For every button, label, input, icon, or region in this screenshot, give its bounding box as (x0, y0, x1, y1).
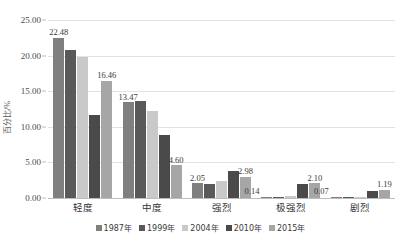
bar[interactable] (331, 197, 342, 198)
bar-group: 0.071.19 (326, 20, 395, 198)
bar-value-label: 2.98 (238, 167, 253, 176)
bar[interactable] (65, 50, 76, 198)
bar-chart: 百分比/% 0.005.0010.0015.0020.0025.00 22.48… (0, 0, 401, 243)
bar-value-label: 0.07 (314, 187, 329, 196)
legend-swatch-icon (226, 225, 232, 231)
bar-column[interactable] (159, 20, 170, 198)
bar[interactable] (171, 165, 182, 198)
x-axis-labels: 轻度中度强烈极强烈剧烈 (48, 200, 395, 214)
bar-column[interactable]: 0.14 (261, 20, 272, 198)
y-axis-tick-mark (42, 198, 46, 199)
chart-legend: 1987年1999年2004年2010年2015年 (0, 222, 401, 233)
bar-column[interactable] (285, 20, 296, 198)
y-axis-ticks: 0.005.0010.0015.0020.0025.00 (0, 20, 46, 198)
bar[interactable] (355, 197, 366, 198)
bar-column[interactable]: 2.98 (240, 20, 251, 198)
y-axis-tick-label: 0.00 (25, 193, 41, 203)
legend-label: 1987年 (104, 222, 132, 233)
legend-swatch-icon (182, 225, 188, 231)
bar[interactable] (343, 197, 354, 198)
y-axis-tick-label: 5.00 (25, 157, 41, 167)
bar-group: 13.474.60 (117, 20, 186, 198)
bar-value-label: 0.14 (245, 187, 260, 196)
bar-column[interactable] (297, 20, 308, 198)
bar-group: 2.052.98 (187, 20, 256, 198)
bar-value-label: 2.05 (190, 174, 205, 183)
x-axis-category-label: 极强烈 (256, 200, 325, 214)
legend-item[interactable]: 2004年 (182, 222, 218, 233)
bar-column[interactable]: 22.48 (53, 20, 64, 198)
x-axis-category-label: 轻度 (48, 200, 117, 214)
bar[interactable] (285, 196, 296, 198)
y-axis-tick-mark (42, 91, 46, 92)
legend-item[interactable]: 1999年 (139, 222, 175, 233)
bar-column[interactable]: 1.19 (379, 20, 390, 198)
bar-column[interactable] (204, 20, 215, 198)
bar[interactable] (123, 102, 134, 198)
x-axis-category-label: 中度 (117, 200, 186, 214)
bar[interactable] (77, 57, 88, 198)
y-axis-tick-mark (42, 162, 46, 163)
plot-area: 22.4816.4613.474.602.052.980.142.100.071… (48, 20, 395, 198)
bar[interactable] (147, 111, 158, 198)
bar-column[interactable] (343, 20, 354, 198)
bar[interactable] (135, 101, 146, 198)
bar-groups: 22.4816.4613.474.602.052.980.142.100.071… (48, 20, 395, 198)
y-axis-tick-label: 10.00 (21, 122, 41, 132)
y-axis-tick-label: 20.00 (21, 51, 41, 61)
bar[interactable] (297, 184, 308, 198)
x-axis-category-label: 强烈 (187, 200, 256, 214)
bar-value-label: 2.10 (307, 174, 322, 183)
bar-column[interactable]: 0.07 (331, 20, 342, 198)
legend-label: 2015年 (277, 222, 305, 233)
bar[interactable] (101, 81, 112, 198)
bar-value-label: 4.60 (169, 156, 184, 165)
legend-item[interactable]: 2015年 (269, 222, 305, 233)
bar-column[interactable] (355, 20, 366, 198)
bar[interactable] (273, 197, 284, 198)
bar-column[interactable] (135, 20, 146, 198)
bar[interactable] (53, 38, 64, 198)
bar[interactable] (204, 184, 215, 198)
bar-column[interactable] (216, 20, 227, 198)
legend-item[interactable]: 1987年 (96, 222, 132, 233)
bar[interactable] (89, 115, 100, 198)
bar[interactable] (216, 181, 227, 198)
legend-label: 2004年 (190, 222, 218, 233)
bar-column[interactable] (77, 20, 88, 198)
y-axis-tick-label: 25.00 (21, 15, 41, 25)
bar-column[interactable] (89, 20, 100, 198)
bar-group: 0.142.10 (256, 20, 325, 198)
bar-column[interactable]: 13.47 (123, 20, 134, 198)
bar-column[interactable] (65, 20, 76, 198)
y-axis-tick-mark (42, 126, 46, 127)
bar-column[interactable] (147, 20, 158, 198)
x-axis-category-label: 剧烈 (326, 200, 395, 214)
gridline (48, 198, 395, 199)
bar-column[interactable] (273, 20, 284, 198)
legend-label: 1999年 (147, 222, 175, 233)
y-axis-tick-mark (42, 55, 46, 56)
bar-column[interactable] (367, 20, 378, 198)
bar-column[interactable]: 4.60 (171, 20, 182, 198)
bar[interactable] (379, 190, 390, 198)
bar-group: 22.4816.46 (48, 20, 117, 198)
legend-swatch-icon (96, 225, 102, 231)
bar-column[interactable]: 2.10 (309, 20, 320, 198)
bar-value-label: 1.19 (377, 180, 392, 189)
bar-value-label: 16.46 (97, 71, 116, 80)
bar-column[interactable]: 2.05 (192, 20, 203, 198)
legend-item[interactable]: 2010年 (226, 222, 262, 233)
bar[interactable] (261, 197, 272, 198)
bar[interactable] (159, 135, 170, 198)
legend-swatch-icon (139, 225, 145, 231)
bar[interactable] (192, 183, 203, 198)
legend-label: 2010年 (234, 222, 262, 233)
bar[interactable] (367, 191, 378, 198)
legend-swatch-icon (269, 225, 275, 231)
bar-column[interactable]: 16.46 (101, 20, 112, 198)
y-axis-tick-label: 15.00 (21, 86, 41, 96)
y-axis-tick-mark (42, 20, 46, 21)
